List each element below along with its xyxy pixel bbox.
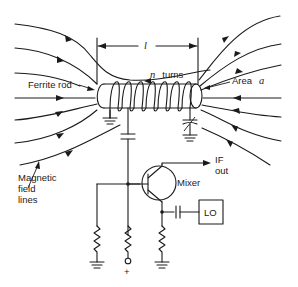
emitter-resistor-icon (155, 226, 169, 268)
field-label: field (18, 183, 35, 194)
supply-plus-label: + (124, 266, 130, 277)
lo-label: LO (204, 207, 217, 218)
emitter-network (160, 202, 174, 226)
bias-resistor-ground-icon (90, 226, 104, 268)
n-turns-label: n turns (150, 64, 184, 81)
ferrite-rod-pointer-icon (79, 85, 95, 91)
ferrite-antenna-diagram: l n turns (0, 0, 298, 287)
out-label: out (215, 165, 229, 176)
coil: n turns (110, 64, 191, 134)
if-label: IF (215, 154, 224, 165)
magnetic-label: Magnetic (18, 172, 57, 183)
length-label: l (144, 40, 147, 51)
base-bias-network (97, 182, 140, 226)
mixer-label: Mixer (177, 177, 200, 188)
coil-ground-icon (103, 110, 117, 124)
ferrite-rod-label: Ferrite rod (28, 79, 72, 90)
if-out-arrow-icon (203, 160, 211, 166)
lo-coupling-capacitor-icon (176, 206, 199, 218)
lines-label: lines (18, 194, 38, 205)
field-lines-right (199, 16, 281, 165)
local-oscillator-box: LO (199, 200, 223, 224)
variable-capacitor-icon (183, 117, 197, 141)
